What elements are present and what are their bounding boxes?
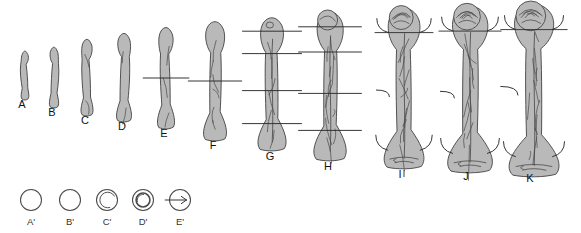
stage-label-b: B (48, 106, 55, 118)
stage-label-a: A (18, 98, 26, 110)
stage-label-j: J (463, 170, 469, 182)
stage-label-g: G (266, 150, 275, 162)
stage-label-i: I (398, 168, 401, 180)
cross-section-label-c-prime: C' (103, 216, 112, 227)
stage-label-c: C (81, 114, 89, 126)
cortex-ring (60, 190, 81, 211)
stage-label-k: K (526, 172, 534, 184)
bone-maturation-figure: ABCDEFGHIJK A'B'C'D'E' (0, 0, 581, 233)
cross-section-label-b-prime: B' (66, 216, 74, 227)
stage-label-d: D (118, 120, 126, 132)
cross-section-label-a-prime: A' (27, 216, 35, 227)
stage-label-f: F (210, 139, 217, 151)
cortex-ring (21, 190, 42, 211)
stage-label-e: E (160, 127, 167, 139)
figure-canvas: ABCDEFGHIJK A'B'C'D'E' (0, 0, 581, 233)
bone-outline-a (20, 51, 29, 100)
cross-section-label-e-prime: E' (176, 216, 184, 227)
cross-section-label-d-prime: D' (139, 216, 148, 227)
stage-label-h: H (324, 160, 332, 172)
